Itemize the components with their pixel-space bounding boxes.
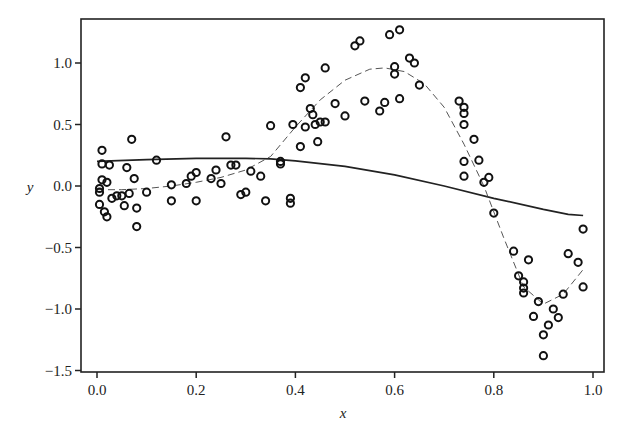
data-point-marker	[341, 112, 348, 119]
x-axis-label: x	[339, 405, 347, 421]
data-point-marker	[128, 136, 135, 143]
data-point-marker	[460, 158, 467, 165]
data-point-marker	[302, 123, 309, 130]
data-point-marker	[470, 136, 477, 143]
plot-frame	[81, 19, 604, 372]
data-point-marker	[386, 31, 393, 38]
data-point-marker	[168, 197, 175, 204]
data-point-marker	[391, 71, 398, 78]
y-tick-label: −1.0	[45, 301, 72, 317]
data-point-marker	[302, 74, 309, 81]
data-point-marker	[356, 37, 363, 44]
solid-fit-curve	[97, 158, 583, 215]
data-point-marker	[485, 174, 492, 181]
chart-canvas: 0.00.20.40.60.81.0 1.00.50.0−0.5−1.0−1.5…	[0, 0, 625, 433]
data-point-marker	[297, 143, 304, 150]
data-point-marker	[580, 283, 587, 290]
data-point-marker	[580, 226, 587, 233]
data-point-marker	[267, 122, 274, 129]
data-point-marker	[475, 157, 482, 164]
data-point-marker	[121, 202, 128, 209]
data-point-marker	[96, 201, 103, 208]
data-point-marker	[143, 189, 150, 196]
data-point-marker	[131, 175, 138, 182]
data-point-marker	[376, 107, 383, 114]
data-point-marker	[460, 121, 467, 128]
y-tick-label: −0.5	[45, 240, 72, 256]
data-point-marker	[322, 64, 329, 71]
y-tick-label: 0.0	[53, 178, 72, 194]
data-point-marker	[106, 162, 113, 169]
data-point-marker	[332, 100, 339, 107]
y-axis-label: y	[25, 179, 34, 195]
data-point-marker	[287, 200, 294, 207]
data-point-marker	[540, 331, 547, 338]
y-tick-label: 1.0	[53, 55, 72, 71]
data-point-marker	[361, 98, 368, 105]
x-axis-ticks: 0.00.20.40.60.81.0	[88, 372, 603, 398]
data-point-marker	[208, 175, 215, 182]
data-point-marker	[381, 99, 388, 106]
data-point-marker	[98, 147, 105, 154]
data-point-marker	[212, 166, 219, 173]
data-point-marker	[411, 59, 418, 66]
data-point-marker	[262, 197, 269, 204]
y-axis-ticks: 1.00.50.0−0.5−1.0−1.5	[45, 55, 81, 379]
data-point-marker	[460, 173, 467, 180]
data-point-marker	[297, 84, 304, 91]
data-point-marker	[560, 291, 567, 298]
data-point-marker	[525, 256, 532, 263]
data-point-marker	[126, 190, 133, 197]
data-point-marker	[222, 133, 229, 140]
x-tick-label: 1.0	[584, 382, 603, 398]
x-tick-label: 0.6	[385, 382, 404, 398]
y-tick-label: −1.5	[45, 363, 72, 379]
data-point-marker	[314, 138, 321, 145]
data-point-marker	[575, 259, 582, 266]
data-point-marker	[123, 164, 130, 171]
data-point-marker	[530, 313, 537, 320]
data-point-marker	[565, 250, 572, 257]
data-point-marker	[550, 305, 557, 312]
data-point-marker	[168, 181, 175, 188]
data-point-marker	[257, 173, 264, 180]
dashed-fit-curve	[97, 68, 583, 304]
data-point-marker	[520, 289, 527, 296]
data-point-marker	[540, 352, 547, 359]
data-point-marker	[193, 197, 200, 204]
plot-area	[96, 26, 587, 359]
data-point-marker	[247, 168, 254, 175]
data-point-marker	[510, 248, 517, 255]
data-point-marker	[396, 95, 403, 102]
data-point-marker	[322, 118, 329, 125]
x-tick-label: 0.0	[88, 382, 107, 398]
data-point-marker	[396, 26, 403, 33]
data-point-marker	[133, 223, 140, 230]
data-point-marker	[133, 205, 140, 212]
y-tick-label: 0.5	[53, 117, 72, 133]
data-point-marker	[118, 192, 125, 199]
x-tick-label: 0.2	[187, 382, 206, 398]
data-point-marker	[232, 162, 239, 169]
data-point-marker	[289, 121, 296, 128]
data-point-marker	[545, 321, 552, 328]
data-point-marker	[217, 180, 224, 187]
x-tick-label: 0.4	[286, 382, 305, 398]
data-point-marker	[416, 82, 423, 89]
data-point-marker	[391, 63, 398, 70]
x-tick-label: 0.8	[484, 382, 503, 398]
data-point-marker	[555, 314, 562, 321]
